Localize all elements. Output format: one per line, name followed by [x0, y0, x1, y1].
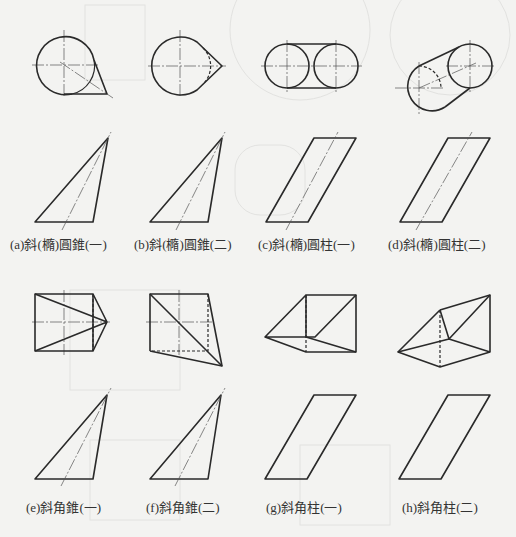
caption-g: (g)斜角柱(一): [266, 497, 342, 516]
panel-a-top-view: [32, 30, 113, 98]
panel-b-front-view: [150, 132, 225, 230]
caption-e: (e)斜角錐(一): [26, 497, 101, 516]
caption-c: (c)斜(橢)圓柱(一): [258, 234, 355, 253]
caption-d: (d)斜(橢)圓柱(二): [388, 234, 485, 253]
panel-e-top-view: [32, 290, 110, 355]
panel-c-top-view: [261, 40, 362, 92]
background-ghost-lines: [70, 0, 510, 525]
panel-h-top-view: [398, 295, 490, 367]
panel-g-top-view: [265, 295, 356, 352]
panel-d-front-view: [400, 132, 490, 230]
panel-f-front-view: [150, 388, 225, 486]
panel-f-top-view: [146, 290, 222, 366]
caption-f: (f)斜角錐(二): [146, 497, 220, 516]
panel-h-front-view: [399, 395, 490, 479]
caption-h: (h)斜角柱(二): [402, 497, 478, 516]
panel-g-front-view: [265, 395, 356, 479]
caption-a: (a)斜(橢)圓錐(一): [10, 234, 107, 253]
panel-a-front-view: [35, 132, 111, 230]
panel-d-top-view: [395, 40, 494, 114]
caption-b: (b)斜(橢)圓錐(二): [134, 234, 231, 253]
panel-e-front-view: [35, 388, 111, 486]
oblique-solids-figure: [0, 0, 516, 537]
panel-b-top-view: [148, 30, 226, 98]
